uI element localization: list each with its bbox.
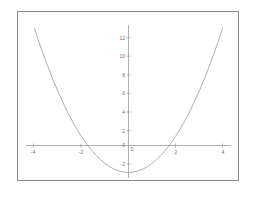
plot-screenshot: -4 -2 0 2 4 -2 0 2 4 6 8 10 12 [0,0,256,198]
y-tick-label-0: 0 [122,143,125,148]
x-tick-label-2: 2 [175,150,178,155]
y-tick-label-12: 12 [119,35,125,40]
y-tick-label-2: 2 [122,128,125,133]
x-tick-label-neg4: -4 [31,150,35,155]
plot-canvas [0,0,256,198]
y-tick-label-8: 8 [122,72,125,77]
y-tick-label-neg2: -2 [121,162,125,167]
y-tick-label-6: 6 [122,91,125,96]
y-tick-label-10: 10 [119,54,125,59]
x-tick-label-neg2: -2 [79,150,83,155]
y-tick-label-4: 4 [122,110,125,115]
x-tick-label-4: 4 [222,150,225,155]
x-tick-label-0: 0 [131,147,134,152]
